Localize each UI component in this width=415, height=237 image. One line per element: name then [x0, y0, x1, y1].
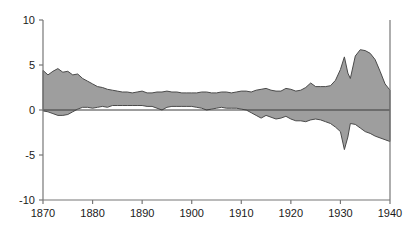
area-chart-svg: -10-50510 187018801890190019101920193019… [0, 0, 415, 237]
x-tick-label: 1880 [80, 207, 104, 219]
y-tick-label: -5 [25, 149, 35, 161]
x-tick-label: 1910 [229, 207, 253, 219]
x-tick-label: 1870 [31, 207, 55, 219]
y-tick-label: 10 [23, 14, 35, 26]
x-tick-label: 1940 [378, 207, 402, 219]
y-tick-label: 5 [29, 59, 35, 71]
chart-figure: -10-50510 187018801890190019101920193019… [0, 0, 415, 237]
x-tick-label: 1900 [179, 207, 203, 219]
y-tick-label: 0 [29, 104, 35, 116]
x-tick-label: 1930 [328, 207, 352, 219]
x-tick-label: 1890 [130, 207, 154, 219]
x-tick-label: 1920 [279, 207, 303, 219]
y-tick-label: -10 [19, 194, 35, 206]
